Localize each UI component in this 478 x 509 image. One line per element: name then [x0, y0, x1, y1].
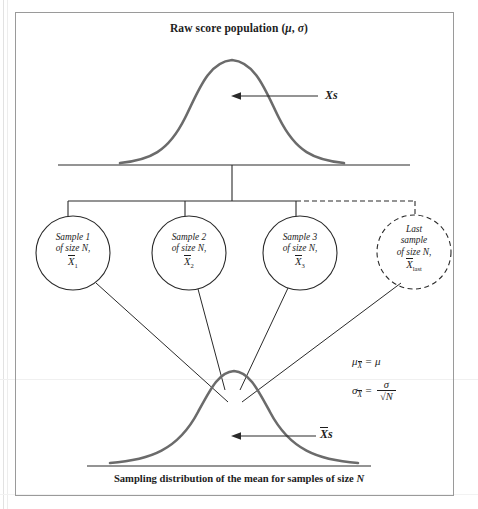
xbars-arrow-head [231, 432, 241, 440]
formula-block: μX = μ σX = σ √N [352, 355, 396, 413]
raw-scores-label: Xs [325, 88, 338, 103]
sample-last-line2: of size N, [374, 247, 454, 258]
formula-standard-error: σX = σ √N [352, 380, 396, 403]
sample-1-mean: X1 [33, 255, 113, 270]
sample-last-line1b: sample [374, 235, 454, 246]
sample-circle-1-text: Sample 1 of size N, X1 [33, 232, 113, 270]
x-bar-plural-s: s [328, 427, 333, 441]
formula-mu-subscript: X [358, 361, 363, 370]
raw-score-population-curve [120, 60, 344, 163]
formula-se-denominator: √N [377, 391, 396, 402]
sample-circle-2-text: Sample 2 of size N, X2 [149, 232, 229, 270]
sample-1-line1: Sample 1 [33, 232, 113, 243]
formula-se-numerator: σ [377, 379, 396, 391]
sample-2-mean-subscript: 2 [191, 262, 194, 269]
formula-sigma-equals: = [365, 384, 372, 396]
figure-container: Raw score population (μ, σ) [0, 0, 478, 509]
figure-caption-text: Sampling distribution of the mean for sa… [114, 473, 357, 484]
sample-last-mean: Xlast [374, 258, 454, 273]
sample-3-mean-subscript: 3 [302, 262, 305, 269]
sample-last-mean-subscript: last [413, 265, 422, 272]
figure-caption: Sampling distribution of the mean for sa… [0, 473, 478, 484]
formula-se-denominator-n: N [386, 391, 393, 402]
formula-mu-rhs: μ [375, 355, 381, 367]
converge-line-sample-3 [240, 288, 288, 390]
converge-line-sample-1 [96, 283, 228, 402]
x-bar-symbol: X [320, 427, 328, 441]
formula-se-fraction: σ √N [377, 379, 396, 402]
sampling-distribution-curve [110, 371, 358, 463]
formula-sigma-subscript-xbar: X [357, 390, 362, 399]
sample-3-line1: Sample 3 [260, 232, 340, 243]
sample-circle-last-text: Last sample of size N, Xlast [374, 224, 454, 273]
sample-circle-3-text: Sample 3 of size N, X3 [260, 232, 340, 270]
sample-2-mean: X2 [149, 255, 229, 270]
sample-3-mean: X3 [260, 255, 340, 270]
xs-arrow-head [231, 92, 241, 100]
sample-means-label: Xs [320, 427, 333, 442]
formula-mean-of-means: μX = μ [352, 355, 396, 370]
figure-caption-n: N [356, 473, 364, 484]
formula-sigma-subscript: X [357, 390, 362, 399]
sample-1-mean-subscript: 1 [75, 262, 78, 269]
sample-3-line2: of size N, [260, 243, 340, 254]
converge-line-sample-2 [198, 289, 225, 390]
formula-mu-equals: = [365, 355, 372, 367]
formula-mu-subscript-xbar: X [358, 361, 363, 370]
sample-2-line1: Sample 2 [149, 232, 229, 243]
sample-2-line2: of size N, [149, 243, 229, 254]
sample-last-line1: Last [374, 224, 454, 235]
sample-1-line2: of size N, [33, 243, 113, 254]
